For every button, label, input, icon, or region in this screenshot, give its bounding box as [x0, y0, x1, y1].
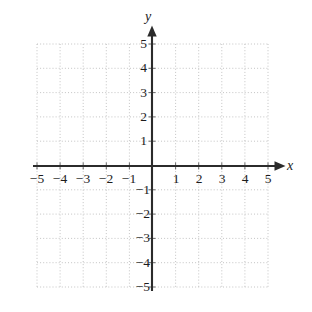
y-tick-label--2: −2 [136, 207, 150, 221]
y-tick-label--1: −1 [136, 183, 150, 197]
y-tick-label-3: 3 [140, 86, 147, 100]
x-tick-label-5: 5 [265, 172, 272, 186]
plot-area [0, 0, 312, 312]
y-tick-label-1: 1 [140, 134, 147, 148]
x-tick-label--5: −5 [30, 172, 44, 186]
y-tick-label-5: 5 [140, 37, 147, 51]
y-tick-label-4: 4 [140, 62, 147, 76]
x-tick-label-4: 4 [242, 172, 249, 186]
x-tick-label--4: −4 [53, 172, 67, 186]
x-tick-label-1: 1 [173, 172, 180, 186]
coordinate-plane-svg [0, 0, 312, 312]
y-tick-label--3: −3 [136, 232, 150, 246]
x-tick-label--1: −1 [122, 172, 136, 186]
x-tick-label--3: −3 [76, 172, 90, 186]
y-tick-label--4: −4 [136, 256, 150, 270]
y-tick-label--5: −5 [136, 280, 150, 294]
y-axis-name-label: y [145, 10, 151, 24]
x-axis-name-label: x [287, 159, 293, 173]
x-tick-label--2: −2 [99, 172, 113, 186]
x-tick-label-2: 2 [196, 172, 203, 186]
y-axis-arrowhead [147, 26, 156, 37]
x-axis-arrowhead [275, 161, 286, 170]
x-tick-label-3: 3 [219, 172, 226, 186]
y-tick-label-2: 2 [140, 110, 147, 124]
coordinate-grid-figure: x y −5 −4 −3 −2 −1 1 2 3 4 5 5 4 3 2 1 −… [0, 0, 312, 312]
